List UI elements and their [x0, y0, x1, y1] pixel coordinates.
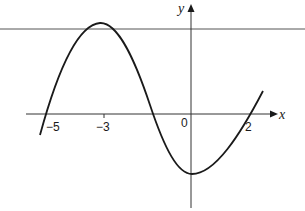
x-tick-label-2: 2: [245, 120, 252, 134]
x-axis-arrow-icon: [270, 111, 278, 118]
origin-label: 0: [181, 116, 188, 130]
chart-svg: −5 −3 0 2 x y: [0, 0, 305, 211]
y-axis-arrow-icon: [188, 4, 195, 12]
x-axis-label: x: [278, 107, 286, 122]
graph-figure: −5 −3 0 2 x y: [0, 0, 305, 211]
cubic-curve: [40, 23, 263, 174]
x-tick-label-neg5: −5: [46, 120, 60, 134]
y-axis-label: y: [176, 1, 185, 16]
x-tick-label-neg3: −3: [96, 120, 110, 134]
